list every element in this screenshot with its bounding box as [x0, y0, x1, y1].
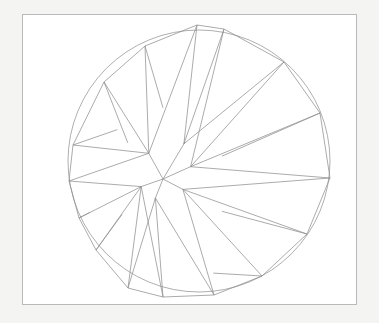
star-burst-figure	[0, 0, 379, 323]
panel-frame-rect	[23, 15, 357, 305]
